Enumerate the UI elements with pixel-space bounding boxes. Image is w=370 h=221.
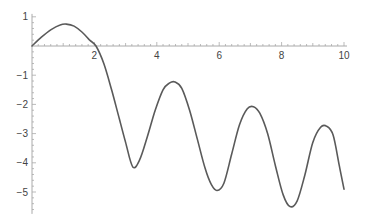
y-tick-label: −3 bbox=[17, 128, 29, 139]
x-tick-label: 10 bbox=[338, 50, 350, 61]
x-tick-label: 6 bbox=[216, 50, 222, 61]
y-tick-label: −5 bbox=[17, 187, 29, 198]
x-tick-label: 8 bbox=[279, 50, 285, 61]
line-chart: 2468101−1−2−3−4−5 bbox=[0, 0, 370, 221]
x-tick-label: 2 bbox=[92, 50, 98, 61]
y-tick-label: 1 bbox=[22, 11, 28, 22]
y-tick-label: −4 bbox=[17, 157, 29, 168]
tick-labels: 2468101−1−2−3−4−5 bbox=[17, 11, 350, 197]
axes bbox=[32, 14, 347, 214]
y-tick-label: −1 bbox=[17, 70, 29, 81]
y-tick-label: −2 bbox=[17, 99, 29, 110]
data-line bbox=[32, 24, 344, 207]
x-tick-label: 4 bbox=[154, 50, 160, 61]
